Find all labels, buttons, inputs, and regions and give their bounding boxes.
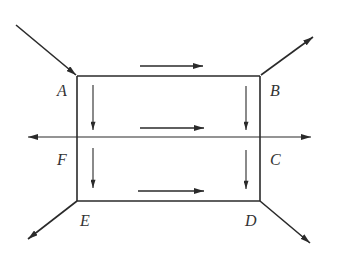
node-label-f: F [56,151,67,168]
node-label-c: C [270,151,281,168]
node-label-a: A [56,82,67,99]
node-label-d: D [244,212,257,229]
inflow-arrow-a [16,25,76,75]
node-label-b: B [270,82,280,99]
flow-diagram: A B C D E F [0,0,343,266]
outflow-arrow-d [260,201,310,243]
node-label-e: E [79,212,90,229]
outflow-arrow-b [261,37,313,75]
outflow-arrow-e [28,201,77,239]
